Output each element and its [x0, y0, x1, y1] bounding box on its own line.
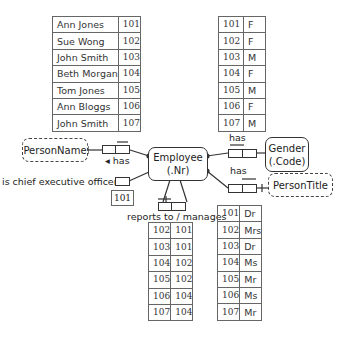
ceo-role[interactable] [115, 177, 130, 186]
table-row: John Smith107 [53, 115, 141, 131]
ceo-reading: is chief executive officer [2, 176, 118, 187]
table-row: 102Mrs [218, 222, 262, 238]
has-title-role-2[interactable] [242, 184, 257, 193]
table-row: Ann Bloggs106 [53, 98, 141, 114]
employee-entity-type[interactable]: Employee (.Nr) [148, 147, 208, 181]
table-row: 101Dr [218, 206, 262, 222]
table-row: 104Ms [218, 255, 262, 271]
table-row: Tom Jones105 [53, 82, 141, 98]
has-name-reading: ◂ has [105, 155, 130, 166]
reports-reading: reports to / manages [127, 211, 227, 222]
table-row: Ann Jones101 [53, 17, 141, 33]
table-row: 106F [219, 98, 266, 114]
table-row: 106Ms [218, 287, 262, 303]
has-gender-role-1[interactable] [228, 149, 243, 158]
table-row: John Smith103 [53, 49, 141, 65]
person-name-value-type[interactable]: PersonName [22, 138, 88, 162]
has-name-role-1[interactable] [102, 145, 116, 154]
table-row: 104102 [149, 255, 193, 271]
table-row: Sue Wong102 [53, 33, 141, 49]
has-name-role-2[interactable] [115, 145, 130, 154]
table-row: 105102 [149, 272, 193, 288]
reports-to-population-table: 102101 103101 104102 105102 106104 10710… [148, 222, 193, 321]
table-row: 107M [219, 115, 266, 131]
table-row: 103M [219, 49, 266, 65]
table-row: Beth Morgan104 [53, 66, 141, 82]
has-title-role-1[interactable] [228, 184, 243, 193]
has-gender-role-2[interactable] [242, 149, 257, 158]
table-row: 106104 [149, 288, 193, 304]
employee-name-population-table: Ann Jones101 Sue Wong102 John Smith103 B… [52, 16, 141, 132]
table-row: 105Mr [218, 271, 262, 287]
table-row: 104F [219, 66, 266, 82]
reports-role-2[interactable] [171, 202, 186, 211]
table-row: 103101 [149, 239, 193, 255]
employee-gender-population-table: 101F 102F 103M 104F 105M 106F 107M [218, 16, 266, 132]
person-title-population-table: 101Dr 102Mrs 103Dr 104Ms 105Mr 106Ms 107… [217, 205, 262, 321]
table-row: 105M [219, 82, 266, 98]
table-row: 107104 [149, 304, 193, 320]
table-row: 102101 [149, 223, 193, 239]
table-row: 101F [219, 17, 266, 33]
gender-entity-type[interactable]: Gender (.Code) [265, 137, 309, 172]
has-title-reading: has [230, 165, 247, 176]
has-gender-reading: has [229, 132, 246, 143]
table-row: 102F [219, 33, 266, 49]
table-row: 103Dr [218, 238, 262, 254]
ceo-instance: 101 [111, 190, 134, 206]
person-title-value-type[interactable]: PersonTitle [268, 173, 333, 197]
table-row: 107Mr [218, 304, 262, 320]
reports-role-1[interactable] [158, 202, 172, 211]
